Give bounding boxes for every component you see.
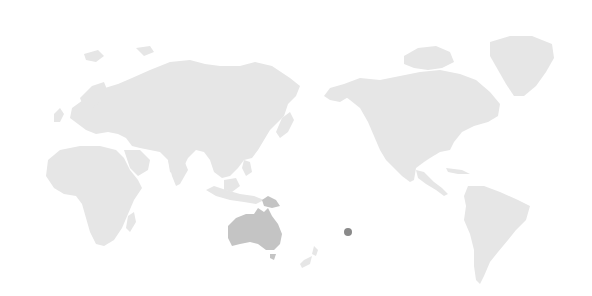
map-svg xyxy=(0,0,592,296)
region-tasmania xyxy=(270,254,276,260)
region-svalbard xyxy=(84,50,104,62)
region-philippines xyxy=(242,160,252,176)
world-map xyxy=(0,0,592,296)
region-north-america xyxy=(342,70,500,182)
region-arctic-archipelago xyxy=(404,46,454,70)
region-south-america xyxy=(464,186,530,284)
region-india xyxy=(168,160,188,186)
region-greenland xyxy=(490,36,554,96)
region-uk xyxy=(54,108,64,122)
region-caribbean xyxy=(446,168,470,174)
region-australia xyxy=(228,208,282,250)
region-papua-new-guinea xyxy=(262,196,280,208)
region-novaya-zemlya xyxy=(136,46,154,56)
location-marker xyxy=(344,228,352,236)
region-central-america xyxy=(416,170,448,196)
region-borneo xyxy=(224,178,240,192)
region-new-zealand xyxy=(300,246,318,268)
region-africa xyxy=(46,146,142,246)
